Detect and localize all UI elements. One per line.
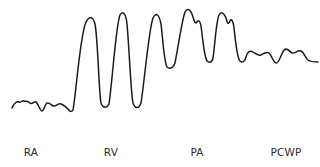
pressure-waveform-diagram [0,0,320,167]
label-pa: PA [190,146,203,158]
label-rv: RV [104,146,118,158]
pressure-waveform-trace [12,10,318,112]
label-ra: RA [24,146,38,158]
label-pcwp: PCWP [270,146,301,158]
